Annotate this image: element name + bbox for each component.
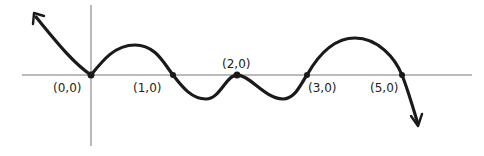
graph-diagram: (0,0) (1,0) (2,0) (3,0) (5,0) xyxy=(0,0,484,156)
label-1-0: (1,0) xyxy=(133,81,161,95)
label-0-0: (0,0) xyxy=(53,81,81,95)
label-2-0: (2,0) xyxy=(222,57,250,71)
label-3-0: (3,0) xyxy=(308,81,336,95)
point-3-0 xyxy=(304,72,310,78)
point-0-0 xyxy=(88,72,95,79)
point-5-0 xyxy=(399,72,405,78)
point-1-0 xyxy=(170,72,176,78)
point-2-0 xyxy=(234,72,241,79)
graph-canvas: (0,0) (1,0) (2,0) (3,0) (5,0) xyxy=(0,0,484,156)
label-5-0: (5,0) xyxy=(370,81,398,95)
